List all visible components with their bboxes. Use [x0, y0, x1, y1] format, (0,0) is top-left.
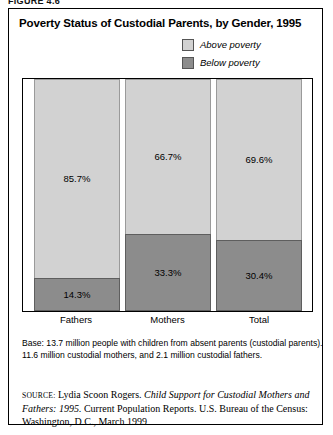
plot-area: 85.7% 14.3% 66.7% 33.3% 69.6% [22, 78, 313, 312]
bar-mothers: 66.7% 33.3% [125, 79, 211, 311]
bar-value-below-mothers: 33.3% [155, 268, 182, 278]
legend-label-below: Below poverty [200, 57, 260, 68]
base-note: Base: 13.7 million people with children … [22, 338, 317, 362]
bar-value-above-fathers: 85.7% [64, 174, 91, 184]
source-citation: source: Lydia Scoon Rogers. Child Suppor… [22, 388, 314, 429]
bar-total: 69.6% 30.4% [216, 79, 302, 311]
bar-segment-above-mothers: 66.7% [125, 79, 211, 234]
category-label-fathers: Fathers [33, 314, 119, 325]
category-label-total: Total [216, 314, 302, 325]
bar-value-below-fathers: 14.3% [64, 290, 91, 300]
base-note-line-1: Base: 13.7 million people with children … [22, 338, 317, 350]
bar-value-below-total: 30.4% [246, 271, 273, 281]
chart-title: Poverty Status of Custodial Parents, by … [19, 17, 301, 29]
bar-segment-below-fathers: 14.3% [34, 278, 120, 311]
bar-segment-above-total: 69.6% [216, 79, 302, 240]
bar-segment-below-total: 30.4% [216, 240, 302, 311]
bar-segment-above-fathers: 85.7% [34, 79, 120, 278]
legend-item-below-poverty: Below poverty [182, 56, 312, 69]
bar-value-above-mothers: 66.7% [155, 152, 182, 162]
bar-group: 85.7% 14.3% 66.7% 33.3% 69.6% [23, 79, 312, 311]
legend-swatch-above-icon [182, 39, 194, 51]
bar-value-above-total: 69.6% [246, 155, 273, 165]
source-kicker: source: [22, 391, 55, 400]
legend-item-above-poverty: Above poverty [182, 38, 312, 51]
category-axis: Fathers Mothers Total [22, 314, 313, 325]
bar-fathers: 85.7% 14.3% [34, 79, 120, 311]
legend-swatch-below-icon [182, 57, 194, 69]
base-note-line-2: 11.6 million custodial mothers, and 2.1 … [22, 350, 317, 362]
chart-legend: Above poverty Below poverty [182, 38, 312, 74]
legend-label-above: Above poverty [200, 39, 261, 50]
figure-label: FIGURE 4.6 [8, 0, 60, 6]
chart-panel: Poverty Status of Custodial Parents, by … [8, 8, 323, 425]
source-author: Lydia Scoon Rogers. [55, 389, 144, 400]
category-label-mothers: Mothers [125, 314, 211, 325]
bar-segment-below-mothers: 33.3% [125, 234, 211, 311]
